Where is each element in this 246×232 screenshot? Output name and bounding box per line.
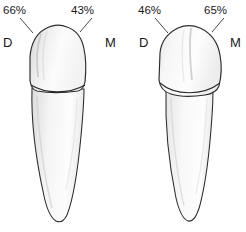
right-mesial-leader-line [212,18,224,32]
left-tooth-distal-percent: 66% [3,5,26,17]
left-tooth-distal-label: D [3,36,12,49]
tooth-illustration [0,0,246,232]
right-tooth-distal-label: D [139,36,148,49]
left-tooth-mesial-percent: 43% [71,5,94,17]
right-tooth-mesial-percent: 65% [204,5,227,17]
right-tooth-distal-percent: 46% [138,5,161,17]
right-tooth-group [155,18,224,221]
left-distal-leader-line [20,18,33,33]
right-distal-leader-line [155,18,168,33]
left-tooth-mesial-label: M [105,36,116,49]
tooth-anatomy-figure: 66% 43% D M 46% 65% D M [0,0,246,232]
left-tooth-crown [30,25,86,92]
left-tooth-group [20,18,92,222]
left-mesial-leader-line [80,18,92,32]
right-tooth-mesial-label: M [230,36,241,49]
